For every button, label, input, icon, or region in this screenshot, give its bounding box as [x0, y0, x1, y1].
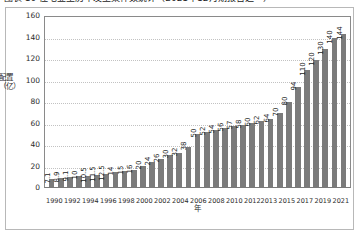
- bar-slot: 144: [339, 17, 348, 187]
- bar-value-label: 26: [154, 154, 161, 163]
- y-axis-tick: 20: [16, 163, 40, 171]
- figure-caption: 图表 10 住宅业主历年发生案件数统计（2021年12月期报告之一）: [4, 0, 272, 3]
- x-axis-slot: 2019: [315, 189, 332, 203]
- x-axis-slot: 2008: [208, 189, 225, 203]
- bar-slot: 9.1: [65, 17, 74, 187]
- bar-slot: 7.1: [47, 17, 56, 187]
- bar[interactable]: 62: [259, 121, 265, 187]
- bar-series: 7.18.99.11010.511.512.514151620242630323…: [45, 17, 350, 187]
- x-axis-slot: 2010: [226, 189, 243, 203]
- bar-value-label: 58: [236, 120, 243, 129]
- bar-slot: 110: [303, 17, 312, 187]
- bar-slot: 15: [120, 17, 129, 187]
- bar-slot: 94: [293, 17, 302, 187]
- x-axis-slot: 1992: [64, 189, 81, 203]
- bar-slot: 11.5: [93, 17, 102, 187]
- x-axis-slot: 2006: [190, 189, 207, 203]
- bar-value-label: 50: [191, 128, 198, 137]
- bar[interactable]: 20: [140, 166, 146, 187]
- bar[interactable]: 56: [222, 128, 228, 188]
- bar-slot: 30: [166, 17, 175, 187]
- bar-slot: 64: [266, 17, 275, 187]
- x-axis-title: 年: [44, 202, 351, 213]
- bar-slot: 26: [157, 17, 166, 187]
- bar-value-label: 15: [118, 166, 125, 175]
- bar-slot: 50: [193, 17, 202, 187]
- plot-area: 7.18.99.11010.511.512.514151620242630323…: [44, 16, 351, 188]
- bar-slot: 80: [284, 17, 293, 187]
- x-axis-slot: 2000: [136, 189, 153, 203]
- y-axis-tick: 40: [16, 141, 40, 149]
- bar[interactable]: 110: [304, 70, 310, 187]
- bar-value-label: 10: [72, 171, 79, 180]
- chart-page: 图表 10 住宅业主历年发生案件数统计（2021年12月期报告之一） 配置（亿）…: [0, 0, 359, 235]
- x-axis-slot: 2002: [154, 189, 171, 203]
- bar-value-label: 38: [181, 141, 188, 150]
- bar-slot: 8.9: [56, 17, 65, 187]
- bar[interactable]: 32: [176, 153, 182, 187]
- bar-value-label: 56: [218, 122, 225, 131]
- bar[interactable]: 50: [195, 134, 201, 187]
- bar[interactable]: 30: [167, 155, 173, 187]
- bar-slot: 12.5: [102, 17, 111, 187]
- bar[interactable]: 64: [268, 119, 274, 187]
- bar-value-label: 130: [318, 41, 325, 54]
- bar-slot: 58: [239, 17, 248, 187]
- bar-value-label: 52: [200, 126, 207, 135]
- bar-slot: 10: [74, 17, 83, 187]
- bar[interactable]: 38: [186, 147, 192, 187]
- bar-value-label: 70: [273, 107, 280, 116]
- x-axis-slot: 2013: [261, 189, 278, 203]
- bar-value-label: 11.5: [90, 166, 97, 182]
- bar-slot: 54: [211, 17, 220, 187]
- bar-value-label: 120: [309, 52, 316, 65]
- bar-value-label: 94: [291, 82, 298, 91]
- bar[interactable]: 12.5: [103, 174, 109, 187]
- bar-value-label: 110: [300, 62, 307, 75]
- x-axis-slot: 1996: [100, 189, 117, 203]
- bar-value-label: 30: [163, 150, 170, 159]
- bar-slot: 10.5: [84, 17, 93, 187]
- bar-value-label: 16: [127, 165, 134, 174]
- x-axis-slot: 1994: [82, 189, 99, 203]
- x-axis-slot: 1998: [118, 189, 135, 203]
- y-axis-tick: 120: [16, 55, 40, 63]
- x-axis-slot: 2004: [172, 189, 189, 203]
- bar-value-label: 9.1: [63, 171, 70, 182]
- bar-value-label: 20: [136, 160, 143, 169]
- bar[interactable]: 120: [313, 60, 319, 188]
- bar-value-label: 12.5: [99, 165, 106, 181]
- bar-value-label: 14: [108, 167, 115, 176]
- bar[interactable]: 130: [322, 49, 328, 187]
- x-axis-slot: 2012: [244, 189, 261, 203]
- bar-slot: 56: [220, 17, 229, 187]
- x-axis-slot: 2021: [333, 189, 350, 203]
- bar[interactable]: 80: [286, 102, 292, 187]
- bar[interactable]: 57: [231, 126, 237, 187]
- x-axis-slot: 1990: [46, 189, 63, 203]
- bar[interactable]: 54: [213, 130, 219, 187]
- bar[interactable]: 60: [249, 123, 255, 187]
- bar[interactable]: 26: [158, 159, 164, 187]
- bar[interactable]: 24: [149, 162, 155, 188]
- bar-value-label: 7.1: [45, 173, 52, 184]
- bar[interactable]: 94: [295, 87, 301, 187]
- bar-value-label: 144: [337, 26, 344, 39]
- bar[interactable]: 140: [332, 38, 338, 187]
- bar-value-label: 140: [327, 31, 334, 44]
- x-axis-slot: 2017: [297, 189, 314, 203]
- bar-slot: 38: [184, 17, 193, 187]
- bar[interactable]: 58: [240, 125, 246, 187]
- bar-value-label: 60: [245, 118, 252, 127]
- bar[interactable]: 144: [341, 34, 347, 187]
- bar-value-label: 24: [145, 156, 152, 165]
- bar[interactable]: 70: [277, 113, 283, 187]
- bar-slot: 52: [202, 17, 211, 187]
- bar-slot: 62: [257, 17, 266, 187]
- bar[interactable]: 16: [131, 170, 137, 187]
- bar-value-label: 80: [282, 97, 289, 106]
- bar-value-label: 62: [254, 116, 261, 125]
- bar[interactable]: 52: [204, 132, 210, 187]
- x-axis-tick-labels: 1990199219941996199820002002200420062008…: [44, 189, 351, 203]
- bar-value-label: 8.9: [54, 171, 61, 182]
